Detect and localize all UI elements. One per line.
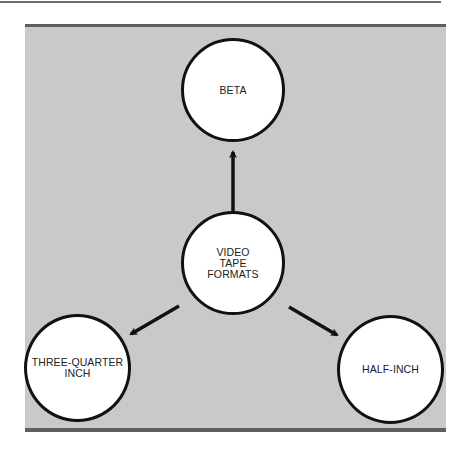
node-beta: BETA <box>181 38 285 142</box>
node-three-quarter-label: THREE-QUARTER INCH <box>32 357 124 379</box>
node-beta-label: BETA <box>219 85 246 96</box>
node-three-quarter-inch: THREE-QUARTER INCH <box>24 314 131 422</box>
arrow-to-half-inch <box>289 307 337 335</box>
node-video-tape-formats: VIDEO TAPE FORMATS <box>181 211 285 315</box>
node-half-inch-label: HALF-INCH <box>362 364 419 375</box>
node-half-inch: HALF-INCH <box>337 315 444 424</box>
arrow-to-three-quarter-inch <box>131 306 179 334</box>
node-center-label: VIDEO TAPE FORMATS <box>207 247 258 280</box>
